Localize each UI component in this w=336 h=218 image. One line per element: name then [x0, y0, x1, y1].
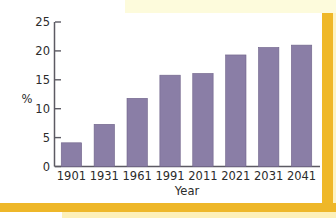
x-tick-label: 2021 [221, 169, 250, 183]
bar [193, 73, 213, 166]
y-axis-title: % [22, 92, 33, 106]
x-tick-label: 2041 [287, 169, 316, 183]
x-tick-label: 2031 [254, 169, 283, 183]
x-tick-label: 1991 [155, 169, 184, 183]
x-tick-label: 1931 [90, 169, 119, 183]
bar [291, 45, 311, 166]
bar [226, 55, 246, 167]
bar [94, 124, 114, 166]
y-tick-label: 10 [35, 102, 50, 116]
y-tick-label: 0 [43, 160, 50, 174]
x-tick-label: 1901 [57, 169, 86, 183]
bar-series [61, 45, 312, 166]
bar [127, 98, 147, 166]
x-tick-label: 1961 [123, 169, 152, 183]
bar-chart: 0510152025 19011931196119912011202120312… [0, 0, 336, 218]
x-axis-tick-labels: 19011931196119912011202120312041 [57, 169, 316, 183]
y-tick-label: 15 [35, 73, 50, 87]
y-tick-label: 5 [43, 131, 50, 145]
x-axis-title: Year [174, 184, 200, 198]
bar [160, 75, 180, 166]
y-axis-tick-labels: 0510152025 [35, 15, 50, 174]
y-tick-label: 20 [35, 44, 50, 58]
y-tick-label: 25 [35, 15, 50, 29]
bar [259, 47, 279, 166]
bar [61, 143, 81, 167]
y-axis-ticks [55, 22, 61, 167]
x-tick-label: 2011 [188, 169, 217, 183]
